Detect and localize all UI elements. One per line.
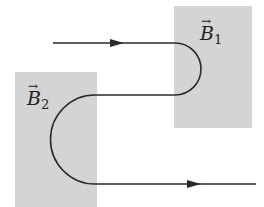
- vector-arrow-icon: →: [28, 80, 38, 92]
- magnetic-field-diagram: → B1 → B2: [0, 0, 264, 207]
- label-b1: → B1: [200, 24, 222, 46]
- label-b2: → B2: [27, 89, 49, 111]
- vector-arrow-icon: →: [201, 15, 211, 27]
- direction-arrow-bottom: [187, 180, 201, 188]
- direction-arrow-top: [110, 39, 124, 47]
